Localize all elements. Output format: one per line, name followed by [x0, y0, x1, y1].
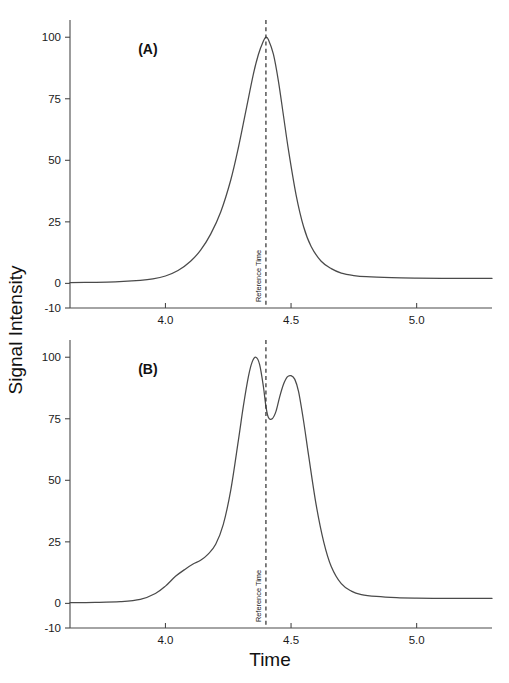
panel-a-signal-curve	[70, 37, 492, 283]
panel-b-y-tick-label: 0	[55, 597, 61, 609]
panel-a-y-tick-label: 100	[42, 31, 61, 43]
panel-b-y-tick-label: 50	[48, 474, 61, 486]
shared-axis-titles: Signal IntensityTime	[5, 265, 291, 670]
chromatogram-figure: -1002550751004.04.55.0(A)Reference Time …	[0, 0, 509, 683]
panel-a-y-tick-label: 0	[55, 277, 61, 289]
panel-b-signal-curve	[70, 357, 492, 602]
panel-a-y-tick-label: 50	[48, 154, 61, 166]
panel-a-tag: (A)	[138, 41, 157, 57]
panel-b-tag: (B)	[138, 361, 157, 377]
panel-a: -1002550751004.04.55.0(A)Reference Time	[42, 20, 492, 326]
panel-a-x-tick-label: 5.0	[409, 314, 425, 326]
panel-b: -1002550751004.04.55.0(B)Reference Time	[42, 340, 492, 646]
panel-b-y-tick-label: -10	[44, 622, 61, 634]
panel-a-y-tick-label: -10	[44, 302, 61, 314]
panel-a-x-tick-label: 4.5	[283, 314, 299, 326]
panel-b-y-tick-label: 100	[42, 351, 61, 363]
plot-canvas: -1002550751004.04.55.0(A)Reference Time …	[0, 0, 509, 683]
panel-b-y-tick-label: 75	[48, 413, 61, 425]
panel-a-reference-time-label: Reference Time	[254, 250, 263, 302]
x-axis-title: Time	[249, 649, 291, 670]
y-axis-title: Signal Intensity	[5, 265, 26, 394]
panel-b-x-tick-label: 4.0	[157, 634, 173, 646]
panel-b-x-tick-label: 5.0	[409, 634, 425, 646]
panel-a-y-tick-label: 25	[48, 216, 61, 228]
panel-b-x-tick-label: 4.5	[283, 634, 299, 646]
panel-a-x-tick-label: 4.0	[157, 314, 173, 326]
panel-b-reference-time-label: Reference Time	[254, 570, 263, 622]
panel-a-y-tick-label: 75	[48, 93, 61, 105]
panel-b-y-tick-label: 25	[48, 536, 61, 548]
